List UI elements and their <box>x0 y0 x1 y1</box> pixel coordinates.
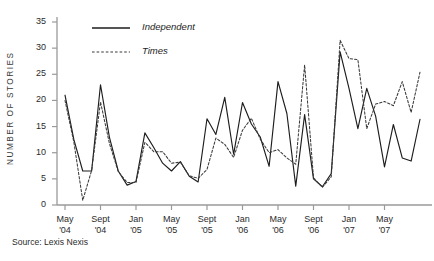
x-tick-month: Sept <box>294 214 334 225</box>
legend-label-independent: Independent <box>142 21 195 32</box>
x-tick-year: '06 <box>258 225 298 236</box>
y-tick-label: 15 <box>26 121 46 131</box>
x-tick-label: May'05 <box>152 214 192 236</box>
x-tick-year: '04 <box>45 225 85 236</box>
x-tick-label: Jan'06 <box>223 214 263 236</box>
x-tick-month: May <box>365 214 405 225</box>
x-tick-label: May'04 <box>45 214 85 236</box>
y-tick-label: 10 <box>26 147 46 157</box>
y-tick-label: 0 <box>26 199 46 209</box>
x-tick-label: Sept'06 <box>294 214 334 236</box>
legend-swatches <box>92 28 130 52</box>
x-tick-label: May'07 <box>365 214 405 236</box>
y-tick-label: 20 <box>26 94 46 104</box>
x-tick-label: May'06 <box>258 214 298 236</box>
x-tick-year: '05 <box>116 225 156 236</box>
x-tick-month: May <box>258 214 298 225</box>
legend-label-times: Times <box>142 45 168 56</box>
x-tick-year: '05 <box>152 225 192 236</box>
x-tick-month: Jan <box>329 214 369 225</box>
series-layer <box>65 40 420 200</box>
source-note: Source: Lexis Nexis <box>12 237 88 247</box>
x-tick-label: Jan'07 <box>329 214 369 236</box>
x-tick-year: '07 <box>365 225 405 236</box>
x-tick-month: May <box>45 214 85 225</box>
x-tick-month: Jan <box>223 214 263 225</box>
y-tick-label: 5 <box>26 173 46 183</box>
x-tick-year: '07 <box>329 225 369 236</box>
x-tick-label: Jan'05 <box>116 214 156 236</box>
x-tick-month: May <box>152 214 192 225</box>
x-tick-year: '06 <box>223 225 263 236</box>
x-tick-year: '05 <box>187 225 227 236</box>
series-line-independent <box>65 52 420 187</box>
x-tick-label: Sept'04 <box>81 214 121 236</box>
y-tick-label: 25 <box>26 68 46 78</box>
chart-figure: NUMBER OF STORIES 05101520253035 May'04S… <box>0 0 434 261</box>
axis-ticks <box>52 22 385 210</box>
series-line-times <box>65 40 420 200</box>
y-tick-label: 30 <box>26 42 46 52</box>
x-tick-label: Sept'05 <box>187 214 227 236</box>
x-tick-month: Sept <box>187 214 227 225</box>
y-axis-title: NUMBER OF STORIES <box>2 18 18 198</box>
x-tick-month: Jan <box>116 214 156 225</box>
chart-axes <box>57 17 432 205</box>
x-tick-year: '06 <box>294 225 334 236</box>
y-tick-label: 35 <box>26 16 46 26</box>
x-tick-year: '04 <box>81 225 121 236</box>
x-tick-month: Sept <box>81 214 121 225</box>
